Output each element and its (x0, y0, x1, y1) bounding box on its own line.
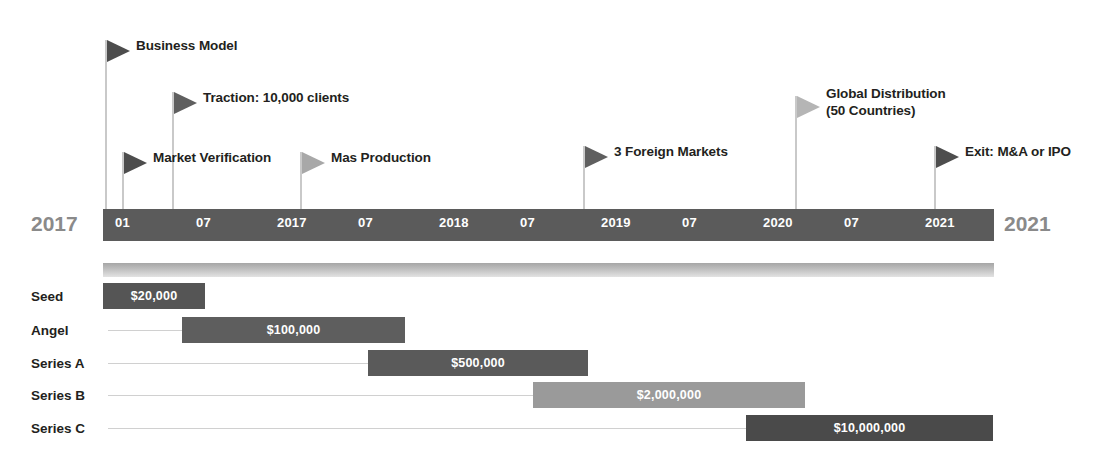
funding-bar: $10,000,000 (746, 415, 993, 441)
funding-section-divider (103, 263, 994, 277)
axis-tick-label: 07 (358, 215, 373, 230)
funding-round-label: Angel (31, 323, 69, 338)
milestone-label: Market Verification (153, 149, 271, 166)
milestone-label: 3 Foreign Markets (614, 143, 728, 160)
funding-leader-line (108, 428, 746, 429)
axis-tick-label: 2017 (277, 215, 307, 230)
axis-tick-label: 2019 (601, 215, 631, 230)
flag-pennant-icon (585, 146, 608, 168)
axis-tick-label: 07 (520, 215, 535, 230)
funding-amount-label: $2,000,000 (533, 382, 805, 408)
flag-pole-icon (105, 40, 107, 210)
flag-pennant-icon (797, 96, 820, 118)
milestone-label: Exit: M&A or IPO (965, 143, 1071, 160)
funding-bar: $20,000 (103, 283, 205, 309)
flag-pennant-icon (124, 152, 147, 174)
axis-tick-label: 07 (844, 215, 859, 230)
funding-round-label: Seed (31, 289, 63, 304)
funding-round-label: Series B (31, 388, 85, 403)
funding-round-label: Series C (31, 421, 85, 436)
funding-bar: $2,000,000 (533, 382, 805, 408)
flag-pennant-icon (107, 40, 130, 62)
flag-pennant-icon (302, 152, 325, 174)
milestone-label: Global Distribution (50 Countries) (826, 85, 946, 119)
funding-amount-label: $20,000 (103, 283, 205, 309)
funding-bar: $500,000 (368, 350, 588, 376)
funding-leader-line (108, 395, 533, 396)
milestone-label: Business Model (136, 37, 237, 54)
funding-bar: $100,000 (182, 317, 405, 343)
flag-pennant-icon (174, 92, 197, 114)
timeline-axis-bar (103, 209, 994, 241)
funding-amount-label: $100,000 (182, 317, 405, 343)
axis-start-year-label: 2017 (31, 212, 78, 236)
axis-tick-label: 07 (682, 215, 697, 230)
axis-end-year-label: 2021 (1004, 212, 1051, 236)
axis-tick-label: 2020 (763, 215, 793, 230)
axis-tick-label: 07 (196, 215, 211, 230)
milestone-label: Traction: 10,000 clients (203, 89, 349, 106)
funding-leader-line (108, 363, 368, 364)
funding-round-label: Series A (31, 356, 85, 371)
axis-tick-label: 01 (115, 215, 130, 230)
axis-tick-label: 2021 (925, 215, 955, 230)
axis-tick-label: 2018 (439, 215, 469, 230)
milestone-label: Mas Production (331, 149, 431, 166)
flag-pennant-icon (936, 146, 959, 168)
funding-amount-label: $10,000,000 (746, 415, 993, 441)
funding-leader-line (108, 330, 182, 331)
timeline-infographic: Business ModelTraction: 10,000 clientsMa… (0, 0, 1107, 468)
funding-amount-label: $500,000 (368, 350, 588, 376)
